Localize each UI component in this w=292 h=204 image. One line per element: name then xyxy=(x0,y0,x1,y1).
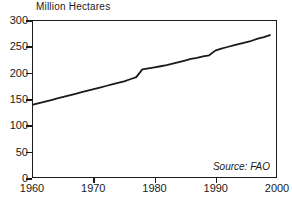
series-polyline xyxy=(33,35,270,105)
x-tick-label: 1990 xyxy=(204,182,228,194)
x-tick-label: 1970 xyxy=(81,182,105,194)
x-tick-label: 2000 xyxy=(265,182,289,194)
source-annotation: Source: FAO xyxy=(213,161,270,172)
chart-title: Million Hectares xyxy=(36,1,110,12)
y-tick-mark xyxy=(26,178,32,180)
x-tick-label: 1980 xyxy=(142,182,166,194)
x-axis-tick-labels: 19601970198019902000 xyxy=(0,182,292,200)
chart-figure: Million Hectares 050100150200250300 Sour… xyxy=(0,0,292,204)
data-series-line xyxy=(33,21,276,177)
plot-area: Source: FAO xyxy=(32,20,277,178)
x-tick-label: 1960 xyxy=(20,182,44,194)
y-axis-tick-labels: 050100150200250300 xyxy=(0,0,28,204)
